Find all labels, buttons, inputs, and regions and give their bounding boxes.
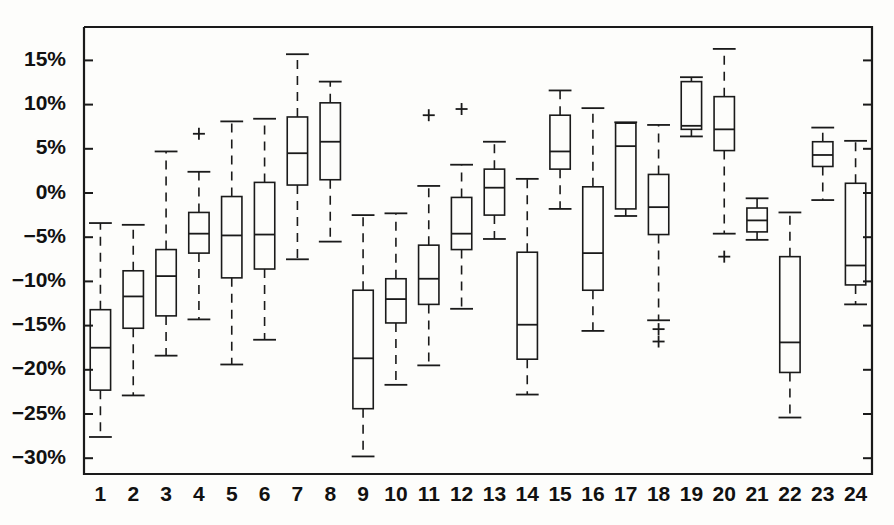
box-plot-group <box>155 151 178 355</box>
box-plot-group <box>713 49 736 263</box>
y-tick-label: 5% <box>36 135 67 158</box>
boxplot-figure: 15%10%5%0%−5%−10%−15%−20%−25%−30% 123456… <box>0 0 894 525</box>
y-tick-label: −10% <box>12 268 67 291</box>
box-plot-group <box>450 103 473 309</box>
box-plot-group <box>680 77 703 136</box>
box-iqr <box>714 97 734 151</box>
box-plot-group <box>253 119 276 340</box>
box-iqr <box>517 252 537 359</box>
box-plot-group <box>220 121 243 364</box>
plot-frame <box>84 27 872 474</box>
x-tick-label: 23 <box>811 482 834 505</box>
box-iqr <box>287 117 307 185</box>
box-iqr <box>583 187 603 290</box>
box-iqr <box>780 257 800 373</box>
box-plot-group <box>746 198 769 240</box>
box-plot-group <box>516 179 539 395</box>
box-iqr <box>222 197 242 278</box>
y-tick-label: −25% <box>12 401 67 424</box>
x-tick-label: 6 <box>259 482 271 505</box>
box-plot-group <box>89 223 112 437</box>
x-tick-label: 17 <box>614 482 637 505</box>
box-plot-group <box>352 215 375 456</box>
x-tick-label: 18 <box>647 482 671 505</box>
box-iqr <box>648 174 668 234</box>
box-plot-group <box>549 90 572 208</box>
box-iqr <box>90 310 110 390</box>
x-tick-label: 10 <box>384 482 407 505</box>
x-tick-label: 5 <box>226 482 238 505</box>
x-tick-label: 4 <box>193 482 205 505</box>
x-axis-tick-labels: 123456789101112131415161718192021222324 <box>95 482 868 505</box>
x-tick-label: 11 <box>418 482 441 505</box>
box-iqr <box>386 279 406 323</box>
x-tick-label: 13 <box>483 482 506 505</box>
box-plot-group <box>417 109 440 365</box>
box-plot-group <box>188 128 211 320</box>
box-iqr <box>845 183 865 285</box>
x-tick-label: 12 <box>450 482 473 505</box>
y-axis-tick-marks <box>84 60 872 458</box>
box-plot-group <box>647 125 670 348</box>
box-iqr <box>681 82 701 130</box>
box-plot-group <box>811 128 834 200</box>
x-tick-label: 2 <box>127 482 139 505</box>
box-plot-group <box>319 82 342 242</box>
box-iqr <box>616 123 636 209</box>
box-plot-group <box>844 141 867 305</box>
boxplot-svg: 15%10%5%0%−5%−10%−15%−20%−25%−30% 123456… <box>0 0 894 525</box>
box-iqr <box>353 290 373 408</box>
x-tick-label: 22 <box>778 482 801 505</box>
box-plot-group <box>122 225 145 396</box>
y-tick-label: 15% <box>24 47 66 70</box>
box-iqr <box>419 245 439 304</box>
box-iqr <box>156 250 176 316</box>
x-tick-label: 8 <box>324 482 336 505</box>
y-tick-label: −15% <box>12 312 67 335</box>
box-iqr <box>254 182 274 269</box>
x-tick-label: 24 <box>844 482 868 505</box>
x-tick-label: 14 <box>516 482 540 505</box>
x-tick-label: 19 <box>680 482 703 505</box>
box-plot-group <box>614 122 637 216</box>
box-plot-group <box>385 213 408 384</box>
x-tick-label: 20 <box>713 482 736 505</box>
box-plot-group <box>286 54 309 259</box>
x-tick-label: 16 <box>581 482 604 505</box>
box-plot-group <box>779 212 802 417</box>
y-tick-label: 0% <box>36 180 67 203</box>
x-tick-label: 21 <box>745 482 769 505</box>
y-tick-label: −5% <box>23 224 66 247</box>
box-plot-group <box>483 142 506 239</box>
box-plot-series <box>89 49 867 457</box>
box-iqr <box>451 197 471 249</box>
x-tick-label: 9 <box>357 482 369 505</box>
axis-frame-path <box>84 27 872 474</box>
box-iqr <box>484 169 504 215</box>
y-tick-label: −30% <box>12 445 67 468</box>
x-tick-label: 15 <box>548 482 572 505</box>
box-iqr <box>550 115 570 169</box>
x-tick-label: 7 <box>292 482 304 505</box>
box-plot-group <box>582 108 605 331</box>
x-tick-label: 1 <box>95 482 107 505</box>
y-tick-label: 10% <box>24 91 66 114</box>
x-tick-label: 3 <box>160 482 172 505</box>
box-iqr <box>123 271 143 328</box>
y-axis-tick-labels: 15%10%5%0%−5%−10%−15%−20%−25%−30% <box>12 47 67 468</box>
y-tick-label: −20% <box>12 356 67 379</box>
